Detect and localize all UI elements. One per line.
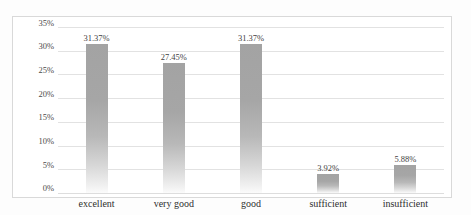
bar-good[interactable] <box>240 44 262 193</box>
x-category-label-sufficient: sufficient <box>290 197 367 210</box>
bar-group-good[interactable]: 31.37% <box>212 27 289 193</box>
y-tick-label-2: 10% <box>20 137 54 146</box>
chart-screenshot: 0% 5% 10% 15% 20% 25% 30% 35% 31 <box>0 0 471 215</box>
bar-series: 31.37% 27.45% 31.37% 3.92% 5.88% <box>58 27 444 193</box>
gridline-0-baseline <box>58 193 444 194</box>
bar-excellent[interactable] <box>86 44 108 193</box>
plot-area: 31.37% 27.45% 31.37% 3.92% 5.88% <box>58 27 444 193</box>
y-tick-label-5: 25% <box>20 66 54 75</box>
y-tick-label-4: 20% <box>20 90 54 99</box>
bar-value-label-insufficient: 5.88% <box>394 154 416 164</box>
y-tick-label-1: 5% <box>20 161 54 170</box>
x-category-label-good: good <box>212 197 289 210</box>
chart-frame: 0% 5% 10% 15% 20% 25% 30% 35% 31 <box>12 16 452 198</box>
x-category-label-excellent: excellent <box>58 197 135 210</box>
y-tick-label-7: 35% <box>20 19 54 28</box>
bar-value-label-very-good: 27.45% <box>161 52 187 62</box>
bar-very-good[interactable] <box>163 63 185 193</box>
bar-group-very-good[interactable]: 27.45% <box>135 27 212 193</box>
y-tick-label-0: 0% <box>20 184 54 193</box>
bar-group-sufficient[interactable]: 3.92% <box>290 27 367 193</box>
x-category-label-very-good: very good <box>135 197 212 210</box>
bar-group-insufficient[interactable]: 5.88% <box>367 27 444 193</box>
y-axis: 0% 5% 10% 15% 20% 25% 30% 35% <box>13 27 54 193</box>
y-tick-label-6: 30% <box>20 42 54 51</box>
bar-value-label-sufficient: 3.92% <box>317 163 339 173</box>
bar-group-excellent[interactable]: 31.37% <box>58 27 135 193</box>
bar-value-label-good: 31.37% <box>238 33 264 43</box>
x-category-label-insufficient: insufficient <box>367 197 444 210</box>
bar-sufficient[interactable] <box>317 174 339 193</box>
x-axis: excellent very good good sufficient insu… <box>58 197 444 213</box>
y-tick-label-3: 15% <box>20 113 54 122</box>
bar-insufficient[interactable] <box>394 165 416 193</box>
bar-value-label-excellent: 31.37% <box>83 33 109 43</box>
